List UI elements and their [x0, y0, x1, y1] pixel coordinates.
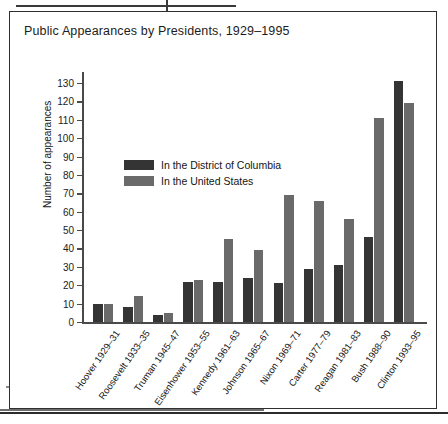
- y-tick-label-90: 90: [48, 151, 74, 162]
- bar: [334, 265, 344, 322]
- bar: [213, 282, 223, 322]
- legend-item-dc: In the District of Columbia: [124, 158, 281, 171]
- chart-legend: In the District of Columbia In the Unite…: [124, 158, 281, 190]
- figure-title: Public Appearances by Presidents, 1929–1…: [24, 24, 290, 38]
- legend-swatch-dc-icon: [124, 160, 154, 170]
- bar: [274, 283, 284, 322]
- y-tick-label-30: 30: [48, 261, 74, 272]
- y-tick-label-40: 40: [48, 243, 74, 254]
- y-tick-label-110: 110: [48, 114, 74, 125]
- bar: [183, 282, 193, 322]
- bar: [304, 269, 314, 322]
- legend-label-dc: In the District of Columbia: [161, 159, 281, 171]
- plot-area: 0102030405060708090100110120130 Hoover 1…: [82, 72, 427, 324]
- bar-group: [93, 304, 113, 322]
- y-tick-label-100: 100: [48, 133, 74, 144]
- y-tick-label-80: 80: [48, 169, 74, 180]
- bar: [374, 118, 384, 322]
- y-tick-label-20: 20: [48, 280, 74, 291]
- bar-group: [334, 219, 354, 322]
- bar-group: [153, 313, 173, 322]
- bar-group: [123, 296, 143, 322]
- y-tick-0: [77, 322, 84, 323]
- y-tick-label-10: 10: [48, 298, 74, 309]
- bar-group: [243, 250, 263, 322]
- y-tick-label-130: 130: [48, 78, 74, 89]
- figure-container: Public Appearances by Presidents, 1929–1…: [9, 11, 437, 409]
- bar: [123, 307, 133, 322]
- bar: [243, 278, 253, 322]
- bar: [93, 304, 103, 322]
- bar: [364, 237, 374, 322]
- y-tick-label-50: 50: [48, 225, 74, 236]
- bar: [164, 313, 174, 322]
- bar: [153, 315, 163, 322]
- y-tick-label-60: 60: [48, 206, 74, 217]
- bar: [254, 250, 264, 322]
- x-tick-label: Eisenhower 1953–55: [152, 328, 212, 407]
- bar: [134, 296, 144, 322]
- bar-group: [394, 81, 414, 322]
- bar-group: [274, 195, 294, 322]
- x-axis-labels: Hoover 1929–31Roosevelt 1933–35Truman 19…: [82, 324, 427, 424]
- y-tick-label-120: 120: [48, 96, 74, 107]
- bar: [224, 239, 234, 322]
- bar: [314, 201, 324, 322]
- bar: [344, 219, 354, 322]
- bar: [104, 304, 114, 322]
- bar-group-container: [82, 72, 427, 322]
- bar-group: [213, 239, 233, 322]
- bar-group: [364, 118, 384, 322]
- legend-swatch-us-icon: [124, 176, 154, 186]
- legend-label-us: In the United States: [161, 175, 253, 187]
- bar-group: [183, 280, 203, 322]
- y-tick-label-70: 70: [48, 188, 74, 199]
- y-tick-label-0: 0: [48, 317, 74, 328]
- bar: [194, 280, 204, 322]
- bar-group: [304, 201, 324, 322]
- bar: [404, 103, 414, 322]
- page-rule-top: [16, 5, 236, 7]
- bar: [394, 81, 404, 322]
- bar: [284, 195, 294, 322]
- legend-item-us: In the United States: [124, 174, 281, 187]
